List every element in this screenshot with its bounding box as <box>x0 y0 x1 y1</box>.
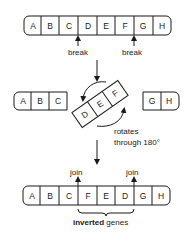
left-fragment: A B C <box>14 92 67 110</box>
caption-rest: genes <box>104 218 128 227</box>
gene-label: F <box>122 21 127 31</box>
gene-label: C <box>55 96 61 106</box>
inverted-genes-caption: inverted genes <box>73 218 128 227</box>
inversion-diagram: A B C D E F G H break break A B C D E F … <box>0 0 190 236</box>
caption-bold: inverted <box>73 218 104 227</box>
gene-label: A <box>29 191 35 201</box>
gene-label: B <box>47 191 53 201</box>
gene-label: H <box>158 191 164 201</box>
gene-label: H <box>166 96 172 106</box>
gene-label: D <box>85 21 91 31</box>
rotating-fragment: D E F <box>72 81 128 128</box>
rotation-label: rotates <box>114 127 138 136</box>
top-chromosome: A B C D E F G H <box>24 16 171 35</box>
gene-label: E <box>103 21 109 31</box>
gene-label: G <box>149 96 156 106</box>
break-label: break <box>122 48 143 57</box>
gene-label: D <box>122 191 128 201</box>
gene-label: B <box>37 96 43 106</box>
gene-label: G <box>140 21 147 31</box>
join-label: join <box>69 168 82 177</box>
gene-label: H <box>159 21 165 31</box>
bottom-chromosome: A B C F E D G H <box>23 186 170 205</box>
gene-label: A <box>20 96 26 106</box>
join-label: join <box>125 168 138 177</box>
rotation-label: through 180° <box>114 138 160 147</box>
gene-label: C <box>66 191 72 201</box>
gene-label: A <box>30 21 36 31</box>
right-fragment: G H <box>143 92 179 110</box>
gene-label: G <box>140 191 147 201</box>
gene-label: F <box>85 191 90 201</box>
gene-label: B <box>47 21 53 31</box>
break-label: break <box>68 48 89 57</box>
gene-label: E <box>103 191 109 201</box>
brace-icon <box>78 209 134 216</box>
gene-label: C <box>66 21 72 31</box>
